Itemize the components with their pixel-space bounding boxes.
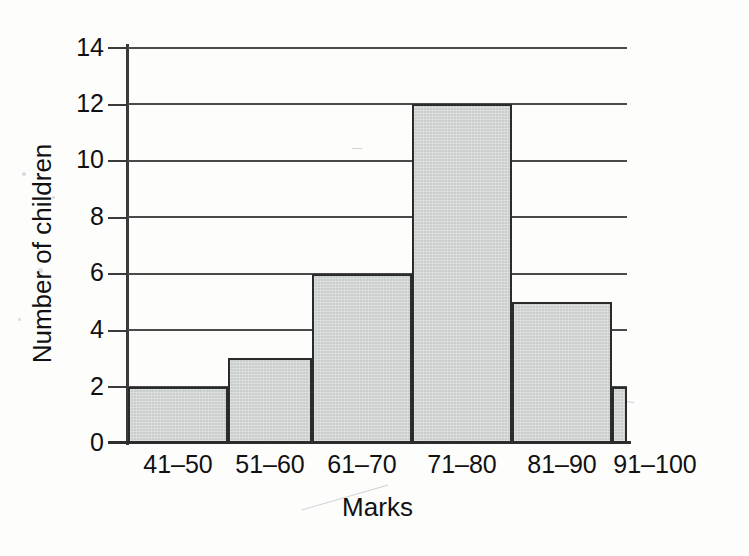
gridline-8 [128, 216, 627, 218]
y-tick-mark [108, 160, 126, 162]
scan-speck [22, 172, 26, 176]
y-tick-mark [108, 386, 126, 388]
y-tick-mark [108, 273, 126, 275]
gridline-14 [128, 47, 627, 49]
y-tick-mark [108, 217, 126, 219]
y-tick-label: 12 [60, 91, 104, 116]
bar-81-90 [512, 302, 612, 443]
y-tick-label: 14 [60, 35, 104, 60]
y-tick-label: 4 [60, 317, 104, 342]
x-tick-label-91-100: 91–100 [600, 452, 710, 477]
y-tick-mark [108, 47, 126, 49]
y-tick-mark [108, 104, 126, 106]
bar-91-100 [612, 387, 627, 443]
y-tick-mark [108, 330, 126, 332]
y-tick-label: 6 [60, 260, 104, 285]
y-tick-label: 0 [60, 430, 104, 455]
x-tick-label-71-80: 71–80 [412, 452, 512, 477]
y-axis-tick-labels: 14 12 10 8 6 4 2 0 [44, 0, 104, 556]
gridline-10 [128, 160, 627, 162]
y-tick-label: 8 [60, 204, 104, 229]
histogram-figure: Number of children 14 12 10 8 6 4 2 0 [0, 0, 749, 556]
x-tick-label-81-90: 81–90 [512, 452, 612, 477]
x-tick-label-51-60: 51–60 [228, 452, 312, 477]
y-tick-label: 2 [60, 374, 104, 399]
bar-61-70 [312, 274, 412, 443]
scan-speck [18, 318, 21, 321]
gridline-12 [128, 103, 627, 105]
bar-71-80 [412, 104, 512, 443]
y-tick-label: 10 [60, 147, 104, 172]
bar-51-60 [228, 358, 312, 443]
bar-41-50 [128, 387, 228, 443]
x-axis-title: Marks [128, 492, 627, 523]
plot-area [128, 48, 627, 443]
x-tick-label-41-50: 41–50 [128, 452, 228, 477]
x-tick-label-61-70: 61–70 [312, 452, 412, 477]
